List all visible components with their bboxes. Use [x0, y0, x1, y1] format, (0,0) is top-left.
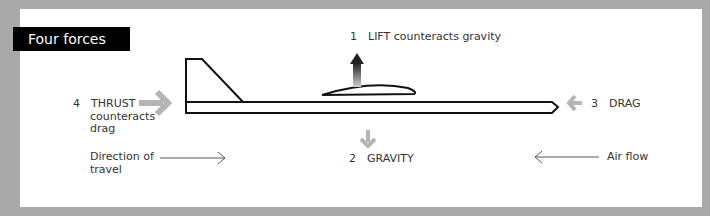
gravity-label: 2GRAVITY: [349, 152, 414, 165]
direction-of-travel-label-line2: travel: [90, 163, 122, 176]
glider-fuselage: [186, 102, 558, 113]
lift-arrow-icon: [350, 53, 364, 87]
gravity-arrow-icon: [361, 130, 375, 146]
air-flow-arrow-icon: [535, 151, 599, 163]
drag-arrow-icon: [569, 96, 582, 110]
glider-wing: [322, 85, 415, 95]
drag-label: 3DRAG: [591, 97, 641, 110]
glider-tail-fin: [186, 59, 243, 102]
thrust-label-line3: drag: [90, 122, 115, 135]
air-flow-label: Air flow: [607, 150, 648, 163]
direction-of-travel-label-line1: Direction of: [90, 150, 154, 163]
lift-label: 1LIFT counteracts gravity: [350, 30, 501, 43]
thrust-label: 4THRUST: [73, 97, 135, 110]
direction-of-travel-arrow-icon: [160, 152, 225, 164]
